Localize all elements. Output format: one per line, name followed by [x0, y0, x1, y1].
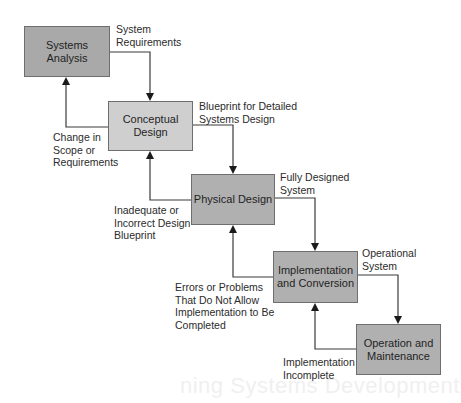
stage-conceptual-design: Conceptual Design — [108, 101, 193, 151]
stage-label: Implementation and Conversion — [277, 264, 354, 290]
label-errors-or-problems: Errors or Problems That Do Not Allow Imp… — [175, 281, 274, 331]
stage-label: Physical Design — [194, 193, 272, 206]
label-operational-system: Operational System — [362, 247, 416, 272]
arrowhead-down-icon — [146, 93, 154, 101]
arrowhead-down-icon — [394, 316, 402, 324]
label-change-in-scope: Change in Scope or Requirements — [53, 131, 118, 169]
label-fully-designed-system: Fully Designed System — [280, 171, 349, 196]
feedback-operation-to-implementation — [315, 310, 356, 349]
arrowhead-up-icon — [229, 225, 237, 233]
stage-implementation-conversion: Implementation and Conversion — [273, 251, 358, 303]
stage-operation-maintenance: Operation and Maintenance — [356, 324, 441, 375]
arrowhead-up-icon — [311, 303, 319, 311]
label-blueprint-detailed-design: Blueprint for Detailed Systems Design — [199, 100, 297, 125]
label-implementation-incomplete: Implementation Incomplete — [283, 356, 355, 381]
arrow-physical-to-implementation — [275, 198, 315, 244]
feedback-conceptual-to-analysis — [66, 84, 108, 127]
arrowhead-down-icon — [311, 243, 319, 251]
arrow-conceptual-to-physical — [193, 125, 233, 167]
label-inadequate-blueprint: Inadequate or Incorrect Design Blueprint — [114, 204, 190, 242]
stage-label: Systems Analysis — [25, 39, 109, 65]
stage-label: Operation and Maintenance — [364, 337, 434, 363]
arrow-analysis-to-conceptual — [110, 52, 150, 94]
arrowhead-up-icon — [146, 151, 154, 159]
feedback-implementation-to-physical — [233, 232, 273, 277]
label-system-requirements: System Requirements — [116, 23, 181, 48]
stage-physical-design: Physical Design — [191, 174, 275, 225]
stage-label: Conceptual Design — [123, 113, 179, 139]
arrow-implementation-to-operation — [358, 275, 398, 317]
stage-systems-analysis: Systems Analysis — [24, 26, 110, 77]
feedback-physical-to-conceptual — [150, 158, 191, 200]
arrowhead-down-icon — [229, 166, 237, 174]
arrowhead-up-icon — [62, 77, 70, 85]
